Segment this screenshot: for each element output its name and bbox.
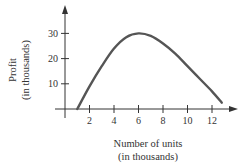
y-tick-label: 30 [48,28,58,39]
y-ticks: 102030 [48,28,69,89]
profit-chart: 102030 24681012 Profit (in thousands) Nu… [0,0,241,164]
y-axis [62,5,68,118]
y-axis-title: Profit [7,58,18,82]
x-axis-subtitle: (in thousands) [118,151,178,163]
x-axis-arrow-icon [229,106,238,112]
y-axis-arrow-icon [62,5,68,14]
x-tick-label: 8 [161,115,166,126]
y-tick-label: 10 [48,78,58,89]
profit-curve [77,33,222,109]
y-tick-label: 20 [48,53,58,64]
x-ticks: 24681012 [87,105,217,126]
x-tick-label: 12 [207,115,217,126]
x-tick-label: 2 [87,115,92,126]
x-tick-label: 4 [112,115,117,126]
x-tick-label: 10 [183,115,193,126]
x-tick-label: 6 [136,115,141,126]
x-axis [55,106,238,112]
x-axis-title: Number of units [114,138,183,149]
y-axis-subtitle: (in thousands) [20,40,32,100]
